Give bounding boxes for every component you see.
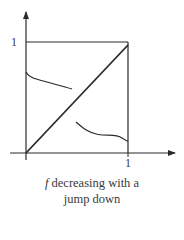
caption-line-1: f decreasing with a	[0, 175, 184, 191]
figure-caption: f decreasing with a jump down	[0, 175, 184, 207]
caption-line-2: jump down	[0, 191, 184, 207]
caption-line-1-text: decreasing with a	[48, 176, 139, 190]
y-label-1: 1	[11, 35, 17, 49]
upper-curve	[26, 72, 72, 89]
x-label-1: 1	[125, 156, 131, 170]
lower-curve	[76, 122, 128, 141]
diagonal-line	[26, 45, 128, 153]
